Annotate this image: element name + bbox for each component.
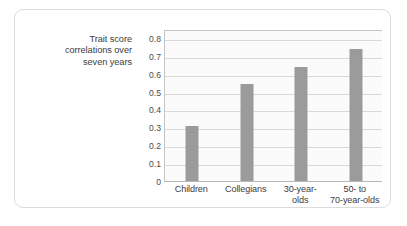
bar-chart: 00.10.20.30.40.50.60.70.8 [142, 30, 382, 182]
bars-layer [165, 31, 382, 181]
y-axis-tick-label: 0.6 [142, 70, 161, 79]
y-axis-tick-label: 0.5 [142, 88, 161, 97]
y-axis-caption-line: correlations over [25, 45, 132, 56]
y-axis-tick-label: 0.1 [142, 160, 161, 169]
y-axis-tick-labels: 00.10.20.30.40.50.60.70.8 [142, 30, 161, 182]
y-axis-tick-label: 0.2 [142, 142, 161, 151]
plot-frame [164, 30, 382, 182]
bar [295, 67, 308, 181]
y-axis-tick-label: 0.4 [142, 106, 161, 115]
x-axis-category-label-line: 50- to [319, 184, 391, 195]
figure-card: Trait score correlations over seven year… [14, 9, 391, 208]
x-axis-category-label: 50- to70-year-olds [319, 184, 391, 205]
x-axis-category-label-line: 70-year-olds [319, 195, 391, 206]
y-axis-caption-line: Trait score [25, 34, 132, 45]
y-axis-caption-line: seven years [25, 57, 132, 68]
x-axis-category-labels: ChildrenCollegians30-year-olds50- to70-y… [164, 184, 382, 210]
bar [186, 126, 199, 181]
bar [349, 49, 362, 181]
y-axis-tick-label: 0.7 [142, 53, 161, 62]
y-axis-tick-label: 0.3 [142, 124, 161, 133]
y-axis-tick-label: 0.8 [142, 35, 161, 44]
bar [240, 84, 253, 181]
y-axis-caption: Trait score correlations over seven year… [25, 34, 132, 68]
